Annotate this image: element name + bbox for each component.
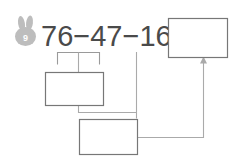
equation-expression: 76−47−16=: [41, 20, 189, 52]
connector-left-box-to-bottom-box: [79, 106, 137, 113]
worksheet-page: 9 76−47−16=: [0, 0, 237, 166]
connector-bottom-box-to-result-box: [138, 62, 204, 138]
answer-box-partial-bottom[interactable]: [80, 120, 138, 155]
problem-number: 9: [23, 33, 28, 43]
bunny-icon: 9: [15, 15, 36, 46]
answer-box-partial-left[interactable]: [46, 73, 104, 106]
math-problem-diagram: 9 76−47−16=: [0, 0, 237, 166]
answer-box-final-result[interactable]: [169, 19, 228, 58]
